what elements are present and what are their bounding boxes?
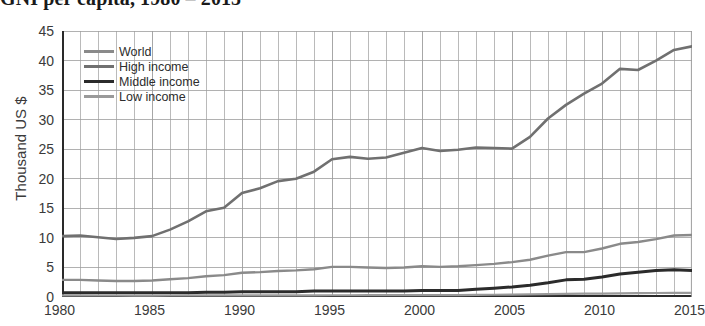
x-tick-label: 1980 [44, 303, 75, 317]
y-tick-label: 20 [20, 172, 54, 186]
x-tick-label: 1985 [134, 303, 165, 317]
legend-swatch-icon [84, 80, 114, 83]
x-tick-label: 1990 [224, 303, 255, 317]
series-line-world [62, 235, 692, 281]
y-tick-label: 5 [20, 260, 54, 274]
legend-label: World [119, 45, 151, 59]
legend-item[interactable]: High income [84, 59, 200, 74]
x-tick-label: 2005 [494, 303, 525, 317]
legend-label: Middle income [119, 75, 200, 89]
x-tick-label: 2000 [404, 303, 435, 317]
legend-swatch-icon [84, 95, 114, 97]
legend-swatch-icon [84, 50, 114, 53]
y-tick-label: 25 [20, 142, 54, 156]
x-tick-label: 1995 [314, 303, 345, 317]
y-tick-label: 45 [20, 24, 54, 38]
y-tick-label: 10 [20, 231, 54, 245]
y-tick-label: 35 [20, 83, 54, 97]
x-tick-label: 2010 [584, 303, 615, 317]
chart-legend: WorldHigh incomeMiddle incomeLow income [84, 44, 200, 104]
legend-item[interactable]: Middle income [84, 74, 200, 89]
legend-item[interactable]: Low income [84, 89, 200, 104]
y-tick-label: 40 [20, 54, 54, 68]
y-tick-label: 15 [20, 201, 54, 215]
chart-title: GNI per capita, 1980 – 2015 [0, 0, 241, 10]
legend-swatch-icon [84, 65, 114, 68]
legend-item[interactable]: World [84, 44, 200, 59]
y-tick-label: 30 [20, 113, 54, 127]
legend-label: High income [119, 60, 188, 74]
x-tick-label: 2015 [674, 303, 705, 317]
legend-label: Low income [119, 90, 186, 104]
